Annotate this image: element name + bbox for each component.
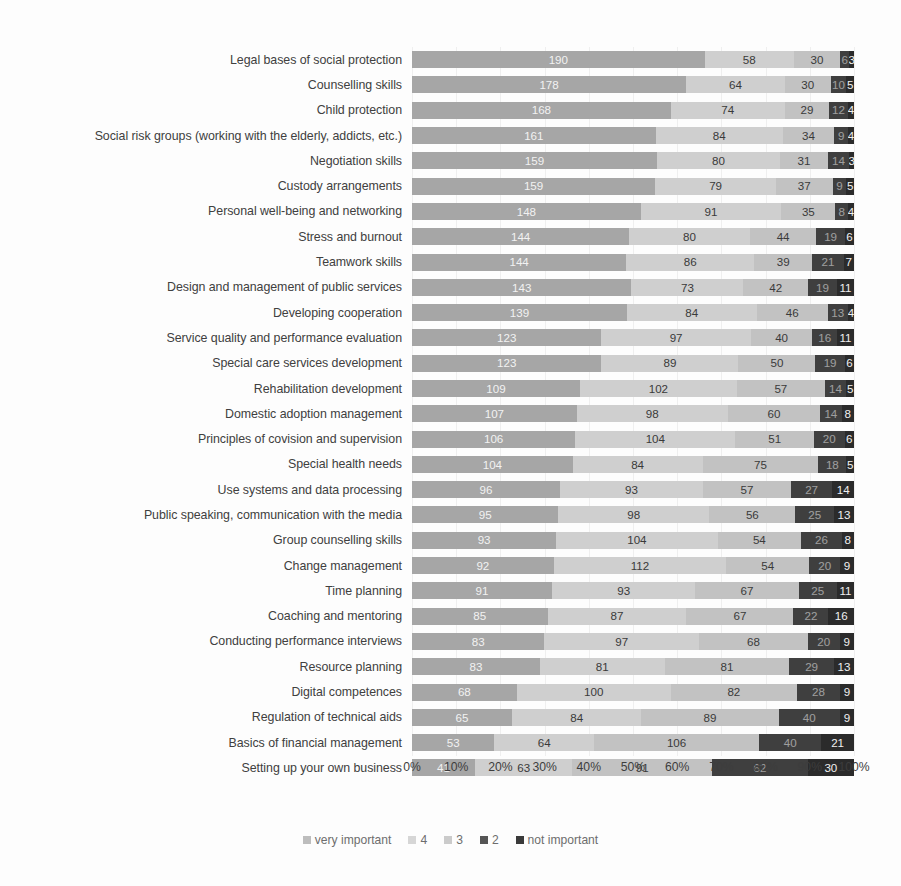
bar-segment: 107	[412, 405, 577, 422]
bar-segment: 68	[699, 633, 808, 650]
chart-row: Legal bases of social protection19058306…	[0, 47, 901, 72]
chart-row: Principles of covision and supervision10…	[0, 426, 901, 451]
category-label: Social risk groups (working with the eld…	[0, 129, 412, 143]
bar-segment: 14	[828, 152, 850, 169]
bar-segment: 5	[846, 456, 854, 473]
bar-value-label: 100	[584, 686, 603, 698]
category-label: Negotiation skills	[0, 154, 412, 168]
category-label: Counselling skills	[0, 78, 412, 92]
legend-item[interactable]: 4	[408, 833, 427, 847]
bar-value-label: 89	[664, 357, 677, 369]
x-axis-tick: 70%	[709, 760, 733, 774]
stacked-bar: 658489409	[412, 709, 854, 726]
bar-segment: 20	[809, 557, 840, 574]
bar-value-label: 104	[646, 433, 665, 445]
legend-item[interactable]: not important	[516, 833, 599, 847]
bar-value-label: 98	[646, 408, 659, 420]
bar-value-label: 57	[741, 484, 754, 496]
bar-segment: 123	[412, 355, 601, 372]
bar-value-label: 40	[775, 332, 788, 344]
bar-segment: 91	[412, 582, 552, 599]
legend-label: 3	[456, 833, 463, 847]
category-label: Resource planning	[0, 660, 412, 674]
bar-value-label: 11	[839, 585, 851, 597]
bar-value-label: 19	[824, 231, 837, 243]
category-label: Special health needs	[0, 457, 412, 471]
x-axis-tick: 100%	[838, 760, 869, 774]
category-label: Setting up your own business	[0, 761, 412, 775]
x-axis-tick: 20%	[488, 760, 512, 774]
bar-segment: 93	[560, 481, 703, 498]
stacked-bar: 8587672216	[412, 608, 854, 625]
legend-item[interactable]: 2	[480, 833, 499, 847]
stacked-bar: 1786430105	[412, 76, 854, 93]
stacked-bar: 190583063	[412, 51, 854, 68]
legend-item[interactable]: 3	[444, 833, 463, 847]
category-label: Rehabilitation development	[0, 382, 412, 396]
chart-row: Basics of financial management5364106402…	[0, 730, 901, 755]
chart-row: Service quality and performance evaluati…	[0, 325, 901, 350]
bar-segment: 9	[840, 557, 854, 574]
bar-segment: 67	[695, 582, 798, 599]
bar-segment: 13	[828, 304, 848, 321]
bar-segment: 50	[738, 355, 815, 372]
bar-segment: 148	[412, 203, 641, 220]
bar-segment: 10	[831, 76, 846, 93]
chart-row: Digital competences6810082289	[0, 679, 901, 704]
bar-value-label: 51	[768, 433, 781, 445]
bar-value-label: 67	[733, 610, 746, 622]
x-axis-tick: 40%	[577, 760, 601, 774]
bar-segment: 39	[754, 254, 812, 271]
bar-segment: 18	[818, 456, 846, 473]
x-axis-tick: 50%	[621, 760, 645, 774]
bar-segment: 11	[837, 279, 854, 296]
bar-segment: 75	[703, 456, 819, 473]
bar-segment: 9	[840, 684, 854, 701]
chart-row: Counselling skills1786430105	[0, 72, 901, 97]
bar-segment: 8	[835, 203, 847, 220]
bar-value-label: 16	[818, 332, 831, 344]
bar-value-label: 123	[497, 332, 516, 344]
bar-segment: 84	[512, 709, 641, 726]
bar-value-label: 19	[816, 282, 829, 294]
bar-segment: 4	[848, 203, 854, 220]
bar-segment: 5	[846, 76, 854, 93]
bar-segment: 9	[833, 178, 847, 195]
stacked-bar: 1398446134	[412, 304, 854, 321]
bar-value-label: 104	[483, 459, 502, 471]
bar-segment: 25	[799, 582, 838, 599]
bar-segment: 21	[812, 254, 843, 271]
category-label: Domestic adoption management	[0, 407, 412, 421]
legend-swatch-icon	[516, 836, 524, 844]
bar-value-label: 93	[617, 585, 630, 597]
bar-value-label: 106	[484, 433, 503, 445]
bar-value-label: 21	[821, 256, 834, 268]
chart-row: Stress and burnout1448044196	[0, 224, 901, 249]
bar-value-label: 5	[847, 383, 853, 395]
category-label: Time planning	[0, 584, 412, 598]
bar-segment: 64	[494, 734, 594, 751]
x-axis-tick: 0%	[403, 760, 421, 774]
bar-value-label: 58	[743, 54, 756, 66]
bar-segment: 21	[821, 734, 854, 751]
bar-value-label: 11	[839, 332, 851, 344]
stacked-bar: 1238950196	[412, 355, 854, 372]
bar-value-label: 96	[479, 484, 492, 496]
stacked-bar: 161843494	[412, 127, 854, 144]
bar-value-label: 144	[511, 231, 530, 243]
bar-value-label: 56	[746, 509, 759, 521]
bar-value-label: 80	[712, 155, 725, 167]
bar-segment: 67	[686, 608, 793, 625]
bar-segment: 30	[794, 51, 840, 68]
category-label: Custody arrangements	[0, 179, 412, 193]
bar-segment: 31	[780, 152, 828, 169]
bar-segment: 109	[412, 380, 580, 397]
category-label: Use systems and data processing	[0, 483, 412, 497]
stacked-bar: 12397401611	[412, 329, 854, 346]
legend-item[interactable]: very important	[303, 833, 392, 847]
bar-segment: 144	[412, 228, 629, 245]
stacked-bar: 1448044196	[412, 228, 854, 245]
bar-value-label: 106	[667, 737, 686, 749]
x-axis: 0%10%20%30%40%50%60%70%80%90%100%	[412, 760, 854, 780]
bar-value-label: 25	[811, 585, 824, 597]
